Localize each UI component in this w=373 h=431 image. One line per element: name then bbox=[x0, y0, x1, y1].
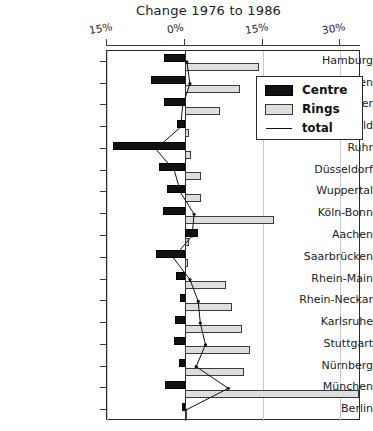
y-axis-label-ruhr: Ruhr bbox=[277, 142, 373, 153]
x-axis-tick-label: 30% bbox=[321, 20, 346, 36]
total-point-marker bbox=[227, 387, 230, 390]
x-axis-tick-label: 15% bbox=[88, 20, 113, 36]
y-axis-tick bbox=[100, 148, 106, 149]
y-axis-tick bbox=[100, 83, 106, 84]
y-axis-tick bbox=[100, 387, 106, 388]
y-axis-tick bbox=[100, 366, 106, 367]
y-axis-label-hamburg: Hamburg bbox=[277, 55, 373, 66]
y-axis-label-aachen: Aachen bbox=[277, 229, 373, 240]
y-axis-tick bbox=[100, 61, 106, 62]
y-axis-tick bbox=[100, 126, 106, 127]
total-point-marker bbox=[204, 343, 207, 346]
y-axis-label-n-rnberg: Nürnberg bbox=[277, 360, 373, 371]
y-axis-tick bbox=[100, 213, 106, 214]
total-point-marker bbox=[192, 213, 195, 216]
legend-label-centre: Centre bbox=[302, 83, 347, 97]
chart-root: Change 1976 to 1986 15%0%15%30% HamburgB… bbox=[0, 0, 373, 431]
y-axis-label-k-ln-bonn: Köln-Bonn bbox=[277, 207, 373, 218]
y-axis-tick bbox=[100, 257, 106, 258]
y-axis-tick bbox=[100, 300, 106, 301]
x-axis-tick bbox=[339, 39, 340, 46]
y-axis-tick bbox=[100, 235, 106, 236]
chart-title-text: Change 1976 to 1986 bbox=[136, 3, 281, 18]
legend-entry-centre: Centre bbox=[265, 82, 347, 98]
total-point-marker bbox=[188, 82, 191, 85]
total-point-marker bbox=[195, 365, 198, 368]
legend-swatch-rings-icon bbox=[265, 104, 293, 115]
y-axis-label-berlin: Berlin bbox=[277, 403, 373, 414]
x-axis-tick bbox=[184, 39, 185, 46]
y-axis-label-wuppertal: Wuppertal bbox=[277, 185, 373, 196]
total-point-marker bbox=[184, 409, 187, 412]
total-point-marker bbox=[197, 300, 200, 303]
legend-label-rings: Rings bbox=[302, 102, 340, 116]
legend-swatch-total-icon bbox=[265, 123, 293, 134]
y-axis-tick bbox=[100, 344, 106, 345]
total-point-marker bbox=[190, 234, 193, 237]
y-axis-label-saarbr-cken: Saarbrücken bbox=[277, 251, 373, 262]
y-axis-label-stuttgart: Stuttgart bbox=[277, 338, 373, 349]
chart-legend: Centre Rings total bbox=[256, 76, 363, 140]
y-axis-label-rhein-neckar: Rhein-Neckar bbox=[277, 294, 373, 305]
y-axis-tick bbox=[100, 191, 106, 192]
legend-swatch-centre-icon bbox=[265, 85, 293, 96]
legend-label-total: total bbox=[302, 121, 333, 135]
x-axis-tick-label: 15% bbox=[244, 20, 269, 36]
y-axis-tick bbox=[100, 409, 106, 410]
y-axis-label-m-nchen: München bbox=[277, 381, 373, 392]
legend-entry-rings: Rings bbox=[265, 101, 340, 117]
y-axis-label-karlsruhe: Karlsruhe bbox=[277, 316, 373, 327]
x-axis-tick bbox=[106, 39, 107, 46]
chart-title: Change 1976 to 1986 bbox=[0, 3, 373, 18]
x-axis-line bbox=[106, 45, 360, 46]
legend-entry-total: total bbox=[265, 120, 333, 136]
y-axis-tick bbox=[100, 170, 106, 171]
y-axis-tick bbox=[100, 279, 106, 280]
total-point-marker bbox=[185, 60, 188, 63]
total-point-marker bbox=[199, 321, 202, 324]
total-point-marker bbox=[188, 278, 191, 281]
y-axis-tick bbox=[100, 322, 106, 323]
x-axis-tick bbox=[262, 39, 263, 46]
y-axis-tick bbox=[100, 104, 106, 105]
x-axis-tick-label: 0% bbox=[166, 21, 185, 36]
y-axis-label-rhein-main: Rhein-Main bbox=[277, 273, 373, 284]
y-axis-label-d-sseldorf: Düsseldorf bbox=[277, 164, 373, 175]
